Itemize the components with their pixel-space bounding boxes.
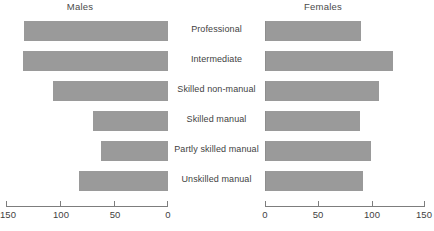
bar-females-unskilled-manual bbox=[265, 171, 363, 191]
axis-label-males-100: 100 bbox=[41, 209, 81, 220]
axis-tick-females-50 bbox=[318, 201, 319, 207]
category-label-skilled-non-manual: Skilled non-manual bbox=[169, 84, 264, 94]
category-label-unskilled-manual: Unskilled manual bbox=[169, 174, 264, 184]
axis-label-females-0: 0 bbox=[245, 209, 285, 220]
axis-line-females bbox=[265, 206, 425, 207]
axis-label-females-50: 50 bbox=[298, 209, 338, 220]
panel-title-females: Females bbox=[288, 1, 358, 12]
axis-tick-females-0 bbox=[265, 201, 266, 207]
axis-tick-males-0 bbox=[167, 201, 168, 207]
category-label-partly-skilled-manual: Partly skilled manual bbox=[169, 144, 264, 154]
bar-males-professional bbox=[24, 21, 168, 41]
category-label-intermediate: Intermediate bbox=[169, 54, 264, 64]
chart-row-professional: Professional bbox=[0, 16, 434, 46]
bar-males-unskilled-manual bbox=[79, 171, 168, 191]
axis-tick-males-50 bbox=[114, 201, 115, 207]
x-axis-males bbox=[6, 201, 168, 207]
axis-label-males-150: 150 bbox=[0, 209, 28, 220]
axis-line-males bbox=[6, 206, 168, 207]
axis-label-females-150: 150 bbox=[404, 209, 434, 220]
bar-females-intermediate bbox=[265, 51, 393, 71]
category-label-professional: Professional bbox=[169, 24, 264, 34]
axis-label-females-100: 100 bbox=[352, 209, 392, 220]
chart-row-skilled-manual: Skilled manual bbox=[0, 106, 434, 136]
axis-label-males-0: 0 bbox=[148, 209, 188, 220]
bar-females-skilled-manual bbox=[265, 111, 360, 131]
panel-title-males: Males bbox=[45, 1, 115, 12]
bar-males-partly-skilled-manual bbox=[101, 141, 168, 161]
axis-tick-females-100 bbox=[372, 201, 373, 207]
chart-row-partly-skilled-manual: Partly skilled manual bbox=[0, 136, 434, 166]
bar-females-skilled-non-manual bbox=[265, 81, 379, 101]
axis-tick-males-150 bbox=[6, 201, 7, 207]
chart-row-intermediate: Intermediate bbox=[0, 46, 434, 76]
bar-females-partly-skilled-manual bbox=[265, 141, 371, 161]
axis-label-males-50: 50 bbox=[95, 209, 135, 220]
chart-row-unskilled-manual: Unskilled manual bbox=[0, 166, 434, 196]
bar-males-intermediate bbox=[23, 51, 168, 71]
axis-tick-females-150 bbox=[424, 201, 425, 207]
bar-males-skilled-manual bbox=[93, 111, 168, 131]
x-axis-females bbox=[265, 201, 425, 207]
axis-tick-males-100 bbox=[60, 201, 61, 207]
bar-females-professional bbox=[265, 21, 361, 41]
bar-males-skilled-non-manual bbox=[53, 81, 168, 101]
category-label-skilled-manual: Skilled manual bbox=[169, 114, 264, 124]
population-pyramid-chart: Males Females Professional Intermediate … bbox=[0, 0, 434, 231]
chart-row-skilled-non-manual: Skilled non-manual bbox=[0, 76, 434, 106]
